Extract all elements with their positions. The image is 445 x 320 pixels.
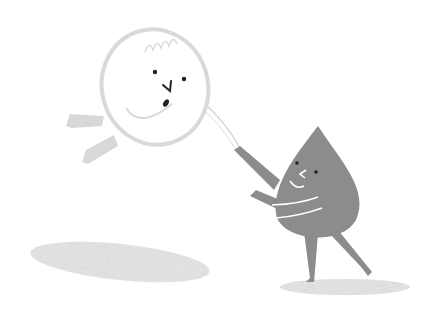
- ground-shadow-left: [29, 235, 212, 290]
- drop-character: [234, 126, 372, 282]
- ball-character: [66, 17, 221, 164]
- illustration: [0, 0, 445, 320]
- ground-shadow-right: [280, 279, 410, 295]
